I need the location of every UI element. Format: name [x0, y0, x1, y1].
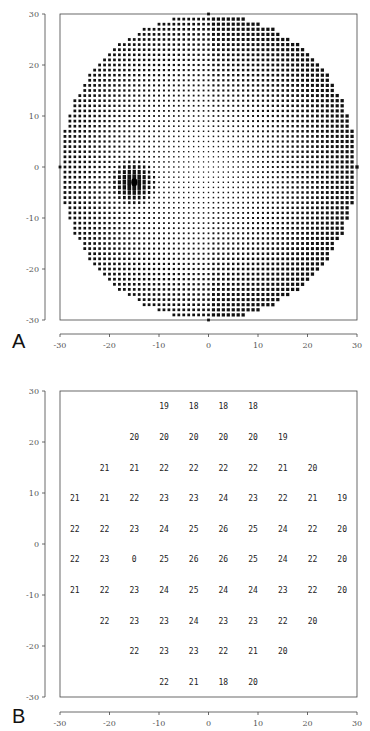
y-tick-label: -10: [26, 214, 39, 223]
threshold-value: 22: [70, 555, 80, 564]
x-tick-label: -30: [54, 341, 67, 350]
threshold-value: 20: [308, 617, 318, 626]
threshold-value: 23: [159, 494, 169, 503]
y-tick-label: 20: [29, 61, 39, 70]
threshold-value: 20: [129, 433, 139, 442]
threshold-value: 22: [129, 494, 139, 503]
threshold-value: 24: [159, 525, 169, 534]
y-tick-label: -20: [26, 642, 39, 651]
threshold-value: 22: [278, 617, 288, 626]
x-tick-label: -20: [103, 341, 116, 350]
threshold-value: 21: [100, 494, 110, 503]
threshold-value: 20: [159, 433, 169, 442]
threshold-value: 22: [70, 525, 80, 534]
threshold-value: 22: [159, 464, 169, 473]
y-tick-label: 0: [34, 540, 39, 549]
threshold-value: 22: [100, 525, 110, 534]
threshold-value: 22: [129, 647, 139, 656]
threshold-value: 18: [219, 678, 229, 687]
panel-a-label: A: [12, 330, 25, 353]
threshold-value: 21: [100, 464, 110, 473]
threshold-value: 22: [219, 647, 229, 656]
threshold-value: 25: [248, 525, 258, 534]
threshold-value: 21: [70, 586, 80, 595]
threshold-value: 19: [159, 402, 169, 411]
threshold-value: 22: [308, 586, 318, 595]
threshold-value: 21: [248, 647, 258, 656]
threshold-value: 23: [129, 586, 139, 595]
threshold-value: 23: [189, 647, 199, 656]
threshold-value: 20: [337, 555, 347, 564]
threshold-value: 21: [308, 494, 318, 503]
threshold-value: 22: [248, 464, 258, 473]
threshold-value: 23: [189, 494, 199, 503]
threshold-value: 24: [219, 494, 229, 503]
threshold-value: 23: [159, 617, 169, 626]
x-tick-label: 30: [352, 719, 362, 728]
threshold-value: 20: [248, 433, 258, 442]
threshold-value: 19: [337, 494, 347, 503]
x-tick-label: 30: [352, 341, 362, 350]
y-tick-label: 10: [29, 112, 39, 121]
threshold-value: 20: [189, 433, 199, 442]
y-tick-label: -30: [26, 316, 39, 325]
threshold-value: 23: [100, 555, 110, 564]
threshold-value: 23: [248, 617, 258, 626]
threshold-value: 20: [278, 647, 288, 656]
threshold-value: 23: [159, 647, 169, 656]
threshold-value: 22: [100, 617, 110, 626]
threshold-value: 26: [189, 555, 199, 564]
threshold-value: 18: [219, 402, 229, 411]
plot-frame: [60, 391, 357, 697]
y-tick-label: 30: [29, 387, 39, 396]
threshold-value: 25: [189, 525, 199, 534]
test-point-grid: [59, 13, 359, 322]
panel-b-plot: 3020100-10-20-30-30-20-10010203019181818…: [0, 377, 370, 731]
x-tick-label: 10: [253, 719, 263, 728]
threshold-value: 21: [278, 464, 288, 473]
threshold-value: 25: [159, 555, 169, 564]
threshold-value: 22: [100, 586, 110, 595]
threshold-values: 1918181820202020201921212222222221202121…: [70, 402, 347, 686]
threshold-value: 23: [278, 586, 288, 595]
threshold-value: 20: [248, 678, 258, 687]
threshold-value: 20: [337, 586, 347, 595]
panel-b-threshold-values: 3020100-10-20-30-30-20-10010203019181818…: [0, 377, 370, 731]
threshold-value: 24: [278, 525, 288, 534]
x-tick-label: -10: [153, 341, 166, 350]
x-tick-label: 20: [302, 719, 312, 728]
threshold-value: 18: [248, 402, 258, 411]
threshold-value: 22: [159, 678, 169, 687]
threshold-value: 22: [278, 494, 288, 503]
threshold-value: 21: [189, 678, 199, 687]
threshold-value: 22: [308, 525, 318, 534]
x-tick-label: 10: [253, 341, 263, 350]
y-tick-label: -20: [26, 265, 39, 274]
threshold-value: 20: [308, 464, 318, 473]
threshold-value: 23: [129, 617, 139, 626]
threshold-value: 20: [219, 433, 229, 442]
threshold-value: 22: [308, 555, 318, 564]
blind-spot-marker: [131, 178, 137, 186]
x-tick-label: 20: [302, 341, 312, 350]
threshold-value: 24: [189, 617, 199, 626]
threshold-value: 0: [132, 555, 137, 564]
threshold-value: 24: [278, 555, 288, 564]
threshold-value: 21: [70, 494, 80, 503]
x-tick-label: 0: [206, 341, 211, 350]
panel-b-label: B: [12, 705, 25, 728]
threshold-value: 19: [278, 433, 288, 442]
y-tick-label: 20: [29, 438, 39, 447]
threshold-value: 25: [248, 555, 258, 564]
threshold-value: 24: [248, 586, 258, 595]
x-tick-label: -20: [103, 719, 116, 728]
y-tick-label: 10: [29, 489, 39, 498]
threshold-value: 18: [189, 402, 199, 411]
threshold-value: 24: [219, 586, 229, 595]
threshold-value: 22: [219, 464, 229, 473]
y-tick-label: -10: [26, 591, 39, 600]
threshold-value: 24: [159, 586, 169, 595]
panel-a-plot: 3020100-10-20-30-30-20-100102030: [0, 0, 370, 370]
threshold-value: 21: [129, 464, 139, 473]
x-tick-label: -30: [54, 719, 67, 728]
